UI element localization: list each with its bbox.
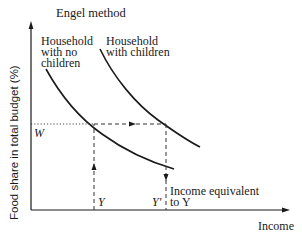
y-axis-label: Food share in total budget (%): [8, 65, 20, 220]
curve-no-children: [46, 69, 174, 169]
curve-label-with-children: Household with children: [106, 34, 170, 59]
engel-method-diagram: Engel method Food share in total budget …: [0, 0, 302, 236]
curve-label-no-children: Household with no children: [41, 34, 93, 70]
income-equivalent-label-line: to Y: [170, 195, 191, 209]
w-label: W: [34, 126, 45, 140]
y-prime-label: Y': [152, 195, 162, 209]
y-axis-arrow-icon: [29, 21, 34, 29]
x-axis-arrow-icon: [282, 208, 290, 213]
x-axis-label: Income: [258, 219, 294, 233]
y-label: Y: [98, 195, 106, 209]
label-line: children: [41, 56, 80, 70]
right-arrow-icon: [129, 122, 136, 127]
curve-with-children: [100, 49, 200, 147]
diagram-title: Engel method: [56, 6, 127, 20]
label-line: with children: [106, 45, 170, 59]
up-arrow-icon: [92, 163, 97, 170]
down-arrow-icon: [164, 174, 169, 181]
